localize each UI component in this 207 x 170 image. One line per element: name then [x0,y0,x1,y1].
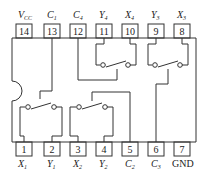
pin-9: 9 [148,24,164,38]
pin-4: 4 [96,142,112,156]
svg-text:Y1: Y1 [47,158,56,170]
chip-body [12,38,196,142]
top-pins: 14 13 12 11 10 9 8 [16,24,190,38]
pin-2: 2 [44,142,60,156]
pin-14: 14 [16,24,32,38]
svg-text:X2: X2 [72,158,82,170]
svg-text:C2: C2 [125,158,135,170]
pin-6: 6 [148,142,164,156]
svg-text:Y2: Y2 [99,158,108,170]
svg-text:11: 11 [99,26,109,37]
svg-text:GND: GND [172,158,194,169]
svg-text:10: 10 [125,26,135,37]
svg-text:X3: X3 [176,9,186,21]
svg-text:4: 4 [102,144,107,155]
pin-3: 3 [70,142,86,156]
internal-wiring [20,38,188,142]
pin-5: 5 [122,142,138,156]
svg-text:6: 6 [154,144,159,155]
svg-text:Y4: Y4 [99,9,108,21]
svg-text:C3: C3 [151,158,161,170]
svg-text:5: 5 [128,144,133,155]
pin-10: 10 [122,24,138,38]
pin-12: 12 [70,24,86,38]
ic-pinout-diagram: 14 13 12 11 10 9 8 VCC C1 C4 Y4 X4 Y3 X3… [0,0,207,170]
svg-text:C1: C1 [47,9,57,21]
svg-text:Y3: Y3 [151,9,160,21]
svg-text:14: 14 [19,26,29,37]
bottom-pins: 1 2 3 4 5 6 7 [16,142,190,156]
svg-text:1: 1 [22,144,27,155]
svg-text:VCC: VCC [18,9,33,21]
svg-text:X1: X1 [17,158,27,170]
svg-text:2: 2 [50,144,55,155]
svg-text:13: 13 [47,26,57,37]
pin-8: 8 [174,24,190,38]
pin-1: 1 [16,142,32,156]
pin-11: 11 [96,24,112,38]
svg-text:X4: X4 [124,9,134,21]
svg-text:7: 7 [180,144,185,155]
bottom-labels: X1 Y1 X2 Y2 C2 C3 GND [17,158,194,170]
svg-text:3: 3 [76,144,81,155]
pin-13: 13 [44,24,60,38]
svg-text:9: 9 [154,26,159,37]
top-labels: VCC C1 C4 Y4 X4 Y3 X3 [18,9,186,21]
svg-text:8: 8 [180,26,185,37]
svg-text:12: 12 [73,26,83,37]
svg-text:C4: C4 [73,9,83,21]
pin-7: 7 [174,142,190,156]
